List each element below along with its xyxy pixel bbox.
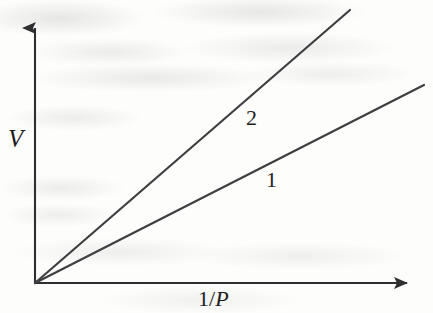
x-axis-label: 1/P: [198, 288, 229, 310]
figure-container: V 1/P 2 1: [0, 0, 433, 313]
axis-group: [35, 28, 407, 283]
data-curves-group: [35, 10, 424, 283]
x-axis-label-prefix: 1/: [198, 286, 215, 311]
curve-label-2: 2: [246, 107, 257, 129]
x-axis-label-variable: P: [215, 286, 228, 311]
y-axis-label: V: [8, 126, 23, 151]
curve-label-1: 1: [266, 169, 277, 191]
plot-canvas: [0, 0, 433, 313]
